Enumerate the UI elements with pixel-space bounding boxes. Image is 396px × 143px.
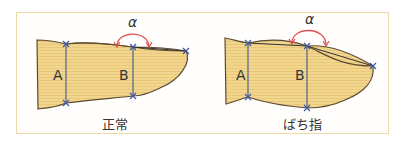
- caption-clubbed: ばち指: [283, 114, 322, 133]
- label-b: B: [295, 67, 305, 83]
- label-b: B: [119, 67, 129, 83]
- label-a: A: [53, 67, 63, 83]
- label-a: A: [236, 67, 246, 83]
- caption-normal: 正常: [102, 114, 128, 133]
- label-angle: α: [128, 14, 137, 30]
- label-angle: α: [305, 11, 314, 27]
